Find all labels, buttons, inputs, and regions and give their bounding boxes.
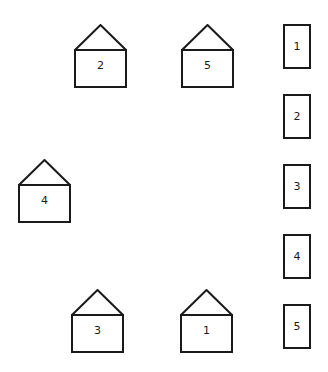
card-4: 4: [283, 234, 311, 279]
house-2: 2: [74, 24, 127, 88]
card-1: 1: [283, 24, 311, 69]
card-3: 3: [283, 164, 311, 209]
card-label: 1: [285, 40, 309, 53]
house-label: 2: [74, 59, 127, 72]
house-1: 1: [180, 289, 233, 353]
house-label: 1: [180, 324, 233, 337]
house-label: 4: [18, 194, 71, 207]
card-label: 5: [285, 320, 309, 333]
house-icon: [180, 289, 233, 353]
card-label: 4: [285, 250, 309, 263]
card-2: 2: [283, 94, 311, 139]
house-5: 5: [181, 24, 234, 88]
house-icon: [181, 24, 234, 88]
house-4: 4: [18, 159, 71, 223]
house-icon: [18, 159, 71, 223]
house-label: 5: [181, 59, 234, 72]
card-label: 3: [285, 180, 309, 193]
card-5: 5: [283, 304, 311, 349]
house-label: 3: [71, 324, 124, 337]
house-icon: [71, 289, 124, 353]
card-label: 2: [285, 110, 309, 123]
house-icon: [74, 24, 127, 88]
house-3: 3: [71, 289, 124, 353]
